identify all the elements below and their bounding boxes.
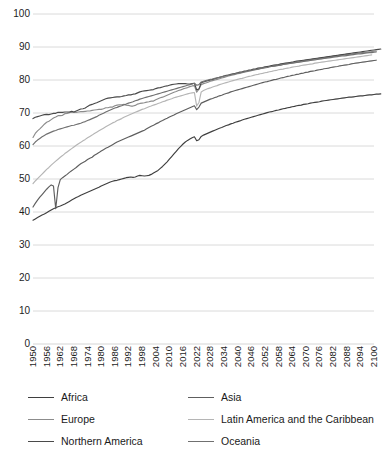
x-tick-label: 2022 bbox=[192, 346, 202, 367]
x-tick-label: 2064 bbox=[287, 346, 297, 367]
legend-label: Latin America and the Caribbean bbox=[221, 414, 374, 425]
x-tick-label: 2076 bbox=[314, 346, 324, 367]
plot-area bbox=[33, 14, 374, 344]
legend-swatch bbox=[188, 419, 214, 420]
legend-label: Northern America bbox=[61, 436, 143, 447]
x-tick-label: 1968 bbox=[69, 346, 79, 367]
x-tick-label: 1986 bbox=[110, 346, 120, 367]
x-tick-label: 1950 bbox=[28, 346, 38, 367]
x-tick-label: 2010 bbox=[164, 346, 174, 367]
y-tick-label: 10 bbox=[2, 306, 30, 316]
y-tick-label: 100 bbox=[2, 9, 30, 19]
x-tick-label: 1992 bbox=[123, 346, 133, 367]
y-tick-label: 0 bbox=[2, 339, 30, 349]
legend-label: Oceania bbox=[221, 436, 260, 447]
x-tick-label: 2028 bbox=[205, 346, 215, 367]
legend-swatch bbox=[28, 441, 54, 442]
y-tick-label: 20 bbox=[2, 273, 30, 283]
legend-label: Africa bbox=[61, 392, 88, 403]
gridlines bbox=[33, 14, 374, 344]
x-tick-label: 2004 bbox=[151, 346, 161, 367]
legend-swatch bbox=[28, 397, 54, 398]
x-tick-label: 2034 bbox=[219, 346, 229, 367]
legend-item-northern-america[interactable]: Northern America bbox=[28, 436, 143, 447]
x-tick-label: 2016 bbox=[178, 346, 188, 367]
x-tick-label: 2040 bbox=[233, 346, 243, 367]
legend-item-latin-america-and-the-caribbean[interactable]: Latin America and the Caribbean bbox=[188, 414, 374, 425]
legend-swatch bbox=[188, 441, 214, 442]
series-line-latin-america-and-the-caribbean bbox=[33, 55, 372, 184]
plot-svg bbox=[33, 14, 374, 344]
x-tick-label: 2070 bbox=[301, 346, 311, 367]
x-tick-label: 2082 bbox=[328, 346, 338, 367]
chart-legend: AfricaAsiaEuropeLatin America and the Ca… bbox=[0, 392, 386, 450]
y-tick-label: 40 bbox=[2, 207, 30, 217]
x-tick-label: 2094 bbox=[355, 346, 365, 367]
y-tick-label: 30 bbox=[2, 240, 30, 250]
legend-item-oceania[interactable]: Oceania bbox=[188, 436, 260, 447]
legend-item-asia[interactable]: Asia bbox=[188, 392, 241, 403]
x-tick-label: 2100 bbox=[369, 346, 379, 367]
series-line-northern-america bbox=[33, 49, 381, 119]
y-axis: 1009080706050403020100 bbox=[0, 0, 30, 344]
x-tick-label: 1980 bbox=[96, 346, 106, 367]
x-tick-label: 1962 bbox=[55, 346, 65, 367]
series-lines bbox=[33, 49, 381, 220]
x-tick-label: 2058 bbox=[274, 346, 284, 367]
legend-label: Asia bbox=[221, 392, 241, 403]
legend-swatch bbox=[28, 419, 54, 420]
x-tick-label: 2088 bbox=[342, 346, 352, 367]
y-tick-label: 60 bbox=[2, 141, 30, 151]
x-tick-label: 2052 bbox=[260, 346, 270, 367]
legend-item-africa[interactable]: Africa bbox=[28, 392, 88, 403]
y-tick-label: 70 bbox=[2, 108, 30, 118]
y-tick-label: 80 bbox=[2, 75, 30, 85]
series-line-oceania bbox=[33, 52, 376, 145]
x-tick-label: 1974 bbox=[83, 346, 93, 367]
x-tick-label: 2046 bbox=[246, 346, 256, 367]
x-tick-label: 1998 bbox=[137, 346, 147, 367]
legend-item-europe[interactable]: Europe bbox=[28, 414, 95, 425]
series-line-europe bbox=[33, 51, 376, 137]
y-tick-label: 50 bbox=[2, 174, 30, 184]
legend-swatch bbox=[188, 397, 214, 398]
x-tick-label: 1956 bbox=[42, 346, 52, 367]
y-tick-label: 90 bbox=[2, 42, 30, 52]
legend-label: Europe bbox=[61, 414, 95, 425]
life-expectancy-line-chart: 1009080706050403020100 19501956196219681… bbox=[0, 0, 386, 452]
